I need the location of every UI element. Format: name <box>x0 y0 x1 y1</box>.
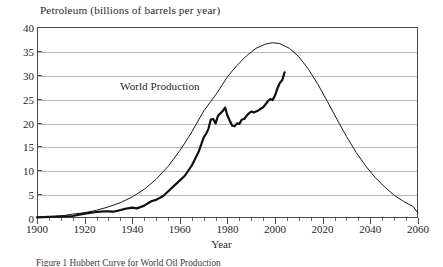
xtick-minor-1985 <box>239 218 240 221</box>
ytick-mark-5 <box>37 194 42 195</box>
xtick-minor-1970 <box>204 218 205 221</box>
xtick-minor-2050 <box>394 218 395 221</box>
chart-figure: Petroleum (billions of barrels per year)… <box>0 0 443 267</box>
xtick-minor-1935 <box>120 218 121 221</box>
xtick-minor-1990 <box>251 218 252 221</box>
chart-title: Petroleum (billions of barrels per year) <box>40 4 220 16</box>
ytick-label-40: 40 <box>8 23 34 34</box>
xtick-minor-2005 <box>287 218 288 221</box>
xtick-minor-1945 <box>144 218 145 221</box>
xtick-minor-1950 <box>156 218 157 221</box>
xtick-minor-2035 <box>358 218 359 221</box>
xtick-minor-1955 <box>168 218 169 221</box>
xtick-minor-1910 <box>61 218 62 221</box>
xtick-label-1920: 1920 <box>62 224 108 235</box>
xtick-minor-1905 <box>49 218 50 221</box>
xtick-label-2040: 2040 <box>347 224 393 235</box>
xtick-minor-2010 <box>299 218 300 221</box>
x-axis-title: Year <box>0 238 443 250</box>
ytick-mark-30 <box>37 75 42 76</box>
ytick-label-15: 15 <box>8 142 34 153</box>
xtick-minor-1965 <box>192 218 193 221</box>
xtick-label-1980: 1980 <box>204 224 250 235</box>
xtick-label-1960: 1960 <box>157 224 203 235</box>
ytick-mark-10 <box>37 170 42 171</box>
xtick-label-2060: 2060 <box>395 224 441 235</box>
xtick-minor-1975 <box>216 218 217 221</box>
ytick-label-30: 30 <box>8 71 34 82</box>
xtick-label-1900: 1900 <box>14 224 60 235</box>
ytick-mark-20 <box>37 123 42 124</box>
ytick-label-35: 35 <box>8 47 34 58</box>
xtick-minor-1930 <box>108 218 109 221</box>
xtick-minor-1995 <box>263 218 264 221</box>
ytick-label-5: 5 <box>8 190 34 201</box>
ytick-mark-25 <box>37 99 42 100</box>
series-hubbert-projection-line <box>37 43 418 218</box>
ytick-label-20: 20 <box>8 119 34 130</box>
xtick-minor-2055 <box>406 218 407 221</box>
xtick-label-1940: 1940 <box>109 224 155 235</box>
xtick-label-2020: 2020 <box>300 224 346 235</box>
xtick-label-2000: 2000 <box>252 224 298 235</box>
xtick-minor-2030 <box>346 218 347 221</box>
xtick-minor-2015 <box>311 218 312 221</box>
xtick-minor-1915 <box>73 218 74 221</box>
figure-caption: Figure 1 Hubbert Curve for World Oil Pro… <box>36 258 436 267</box>
ytick-mark-35 <box>37 51 42 52</box>
xtick-minor-2025 <box>335 218 336 221</box>
ytick-label-10: 10 <box>8 166 34 177</box>
annotation-world-production: World Production <box>120 80 200 92</box>
series-world-production-line <box>37 72 285 217</box>
xtick-minor-1925 <box>97 218 98 221</box>
ytick-mark-15 <box>37 146 42 147</box>
chart-series-layer <box>37 27 418 218</box>
xtick-minor-2045 <box>382 218 383 221</box>
ytick-label-25: 25 <box>8 95 34 106</box>
